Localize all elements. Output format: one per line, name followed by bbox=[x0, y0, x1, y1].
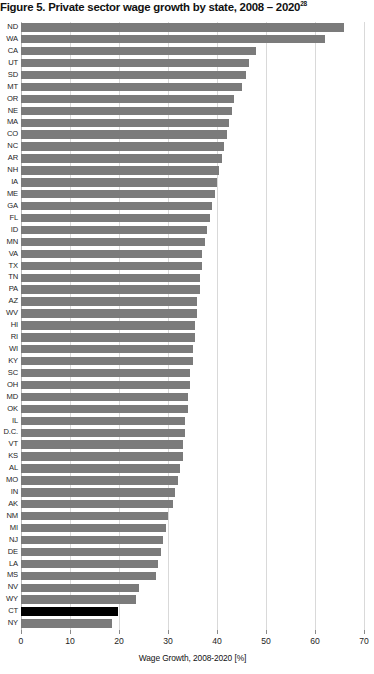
category-label-vt: VT bbox=[0, 440, 18, 448]
category-label-nc: NC bbox=[0, 142, 18, 150]
category-label-fl: FL bbox=[0, 214, 18, 222]
bar-ne bbox=[21, 107, 232, 115]
bar-row: TN bbox=[21, 272, 364, 284]
bar-mt bbox=[21, 83, 242, 91]
bar-row: SC bbox=[21, 368, 364, 380]
bar-vt bbox=[21, 440, 183, 448]
bar-row: IN bbox=[21, 487, 364, 499]
bar-row: RI bbox=[21, 332, 364, 344]
bar-sc bbox=[21, 369, 190, 377]
bar-row: OR bbox=[21, 94, 364, 106]
bar-ri bbox=[21, 333, 195, 341]
bar-ga bbox=[21, 202, 212, 210]
category-label-nd: ND bbox=[0, 23, 18, 31]
category-label-id: ID bbox=[0, 226, 18, 234]
bar-de bbox=[21, 548, 161, 556]
bar-ca bbox=[21, 47, 256, 55]
x-tick-70 bbox=[364, 630, 365, 634]
bar-az bbox=[21, 297, 197, 305]
x-tick-label-40: 40 bbox=[202, 636, 232, 646]
x-tick-30 bbox=[168, 630, 169, 634]
category-label-de: DE bbox=[0, 548, 18, 556]
bar-row: ID bbox=[21, 225, 364, 237]
bar-row: DE bbox=[21, 547, 364, 559]
bar-row: CT bbox=[21, 606, 364, 618]
x-tick-label-30: 30 bbox=[153, 636, 183, 646]
bar-fl bbox=[21, 214, 210, 222]
bar-ut bbox=[21, 59, 249, 67]
category-label-ut: UT bbox=[0, 59, 18, 67]
bar-row: GA bbox=[21, 201, 364, 213]
bar-pa bbox=[21, 285, 200, 293]
bar-nv bbox=[21, 584, 139, 592]
category-label-ms: MS bbox=[0, 571, 18, 579]
bar-nj bbox=[21, 536, 163, 544]
category-label-ak: AK bbox=[0, 500, 18, 508]
bar-row: NJ bbox=[21, 535, 364, 547]
category-label-mt: MT bbox=[0, 83, 18, 91]
category-label-nm: NM bbox=[0, 512, 18, 520]
category-label-mn: MN bbox=[0, 238, 18, 246]
bar-nd bbox=[21, 23, 344, 31]
bar-ny bbox=[21, 619, 112, 627]
bar-wy bbox=[21, 595, 136, 603]
bar-row: NV bbox=[21, 582, 364, 594]
category-label-ky: KY bbox=[0, 357, 18, 365]
bar-nc bbox=[21, 142, 224, 150]
x-tick-60 bbox=[315, 630, 316, 634]
bar-in bbox=[21, 488, 175, 496]
category-label-ks: KS bbox=[0, 452, 18, 460]
bar-wi bbox=[21, 345, 193, 353]
bar-ok bbox=[21, 405, 188, 413]
bar-nh bbox=[21, 166, 219, 174]
x-tick-0 bbox=[21, 630, 22, 634]
x-tick-20 bbox=[119, 630, 120, 634]
category-label-wi: WI bbox=[0, 345, 18, 353]
bar-row: PA bbox=[21, 284, 364, 296]
bar-row: OH bbox=[21, 380, 364, 392]
bar-ma bbox=[21, 119, 229, 127]
bar-row: CO bbox=[21, 129, 364, 141]
bar-row: IL bbox=[21, 415, 364, 427]
bar-il bbox=[21, 417, 185, 425]
category-label-sd: SD bbox=[0, 71, 18, 79]
bar-row: MT bbox=[21, 82, 364, 94]
bar-mo bbox=[21, 476, 178, 484]
bar-row: KY bbox=[21, 356, 364, 368]
category-label-pa: PA bbox=[0, 285, 18, 293]
bar-ak bbox=[21, 500, 173, 508]
bar-mi bbox=[21, 524, 166, 532]
x-tick-40 bbox=[217, 630, 218, 634]
category-label-oh: OH bbox=[0, 381, 18, 389]
figure-title: Figure 5. Private sector wage growth by … bbox=[0, 0, 369, 14]
bar-row: FL bbox=[21, 213, 364, 225]
bar-row: KS bbox=[21, 451, 364, 463]
bar-row: ME bbox=[21, 189, 364, 201]
x-tick-label-10: 10 bbox=[55, 636, 85, 646]
bar-row: MA bbox=[21, 117, 364, 129]
bar-row: UT bbox=[21, 58, 364, 70]
gridline-70 bbox=[364, 22, 365, 630]
bar-mn bbox=[21, 238, 205, 246]
bar-wa bbox=[21, 35, 325, 43]
category-label-ct: CT bbox=[0, 607, 18, 615]
bar-row: AZ bbox=[21, 296, 364, 308]
category-label-az: AZ bbox=[0, 297, 18, 305]
bar-row: VA bbox=[21, 249, 364, 261]
category-label-va: VA bbox=[0, 250, 18, 258]
bar-tx bbox=[21, 262, 202, 270]
bar-row: WY bbox=[21, 594, 364, 606]
category-label-nh: NH bbox=[0, 166, 18, 174]
bar-row: AR bbox=[21, 153, 364, 165]
category-label-sc: SC bbox=[0, 369, 18, 377]
bar-row: LA bbox=[21, 558, 364, 570]
category-label-ny: NY bbox=[0, 619, 18, 627]
category-label-wy: WY bbox=[0, 595, 18, 603]
bar-row: HI bbox=[21, 320, 364, 332]
bar-row: MO bbox=[21, 475, 364, 487]
bar-row: IA bbox=[21, 177, 364, 189]
bar-row: WA bbox=[21, 34, 364, 46]
bar-row: AL bbox=[21, 463, 364, 475]
category-label-wa: WA bbox=[0, 35, 18, 43]
